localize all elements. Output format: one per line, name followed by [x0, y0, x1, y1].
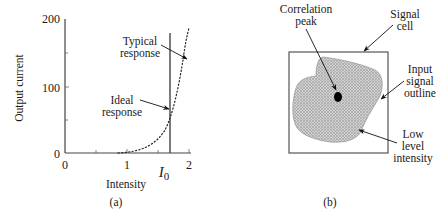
x-axis-label: Intensity — [106, 178, 146, 191]
input-outline-label-3: outline — [404, 87, 436, 99]
caption-a: (a) — [110, 196, 123, 209]
y-tick-100: 100 — [42, 81, 60, 95]
low-intensity-label-3: intensity — [393, 152, 433, 165]
correlation-label-2: peak — [295, 15, 317, 28]
ideal-response-label-2: response — [102, 106, 142, 119]
low-intensity-label-2: level — [402, 140, 424, 152]
signal-cell-arrow — [364, 25, 393, 51]
y-axis-label: Output current — [13, 54, 26, 122]
panel-a-graph: 200 100 0 0 1 2 I0 Output current Intens… — [13, 12, 192, 209]
ideal-response-label-1: Ideal — [111, 94, 134, 106]
x-tick-2: 2 — [186, 158, 192, 172]
figure: 200 100 0 0 1 2 I0 Output current Intens… — [0, 0, 441, 215]
ideal-response-arrow — [140, 100, 169, 109]
low-intensity-label-1: Low — [402, 128, 424, 140]
panel-b-diagram: Correlation peak Signal cell Input signa… — [280, 3, 436, 209]
signal-cell-label-2: cell — [397, 20, 414, 32]
typical-response-arrow — [161, 45, 187, 59]
low-intensity-arrow — [359, 130, 397, 143]
y-tick-0: 0 — [54, 147, 60, 161]
x-tick-1: 1 — [124, 158, 130, 172]
correlation-peak-dot — [334, 92, 342, 102]
x-tick-0: 0 — [62, 158, 68, 172]
correlation-label-1: Correlation — [280, 3, 333, 15]
input-outline-arrow — [381, 81, 404, 99]
typical-response-label-2: response — [120, 47, 160, 60]
caption-b: (b) — [323, 196, 337, 209]
threshold-label: I0 — [158, 164, 170, 182]
y-tick-200: 200 — [42, 12, 60, 26]
